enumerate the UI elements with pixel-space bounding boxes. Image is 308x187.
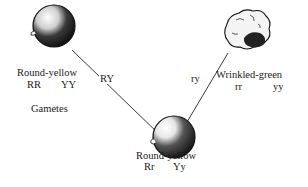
- parent1-genotype-r: RR: [27, 79, 41, 90]
- offspring-phenotype: Round-yellow: [136, 150, 196, 161]
- gametes-label: Gametes: [31, 103, 68, 114]
- cross-line-left: [72, 50, 161, 136]
- dihybrid-cross-diagram: Round-yellow RR YY Wrinkled-green rr yy …: [0, 0, 308, 187]
- parent2-genotype-r: rr: [235, 81, 242, 92]
- offspring-genotype-r: Rr: [144, 161, 155, 172]
- cross-line-right: [187, 53, 228, 122]
- parent1-genotype-y: YY: [61, 79, 76, 90]
- parent2-phenotype: Wrinkled-green: [216, 69, 282, 80]
- offspring-genotype-y: Yy: [173, 161, 186, 172]
- wrinkled-pea-icon: [225, 10, 270, 49]
- round-pea-icon: [31, 5, 75, 47]
- parent2-genotype-y: yy: [273, 81, 284, 92]
- parent1-phenotype: Round-yellow: [17, 67, 77, 78]
- gamete-right: ry: [190, 73, 201, 84]
- gamete-left: RY: [99, 73, 115, 84]
